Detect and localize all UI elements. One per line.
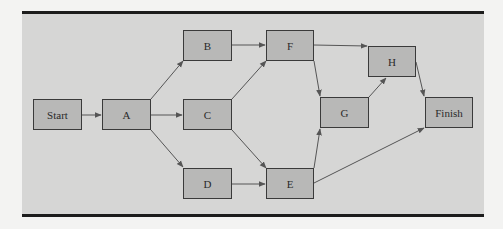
edge-a-d: [151, 130, 183, 167]
node-b-label: B: [204, 40, 211, 52]
node-b: B: [183, 30, 232, 61]
node-g-label: G: [341, 107, 349, 119]
node-a: A: [102, 99, 151, 130]
node-start-label: Start: [47, 109, 68, 121]
edge-g-h: [369, 78, 386, 97]
edge-f-g: [314, 61, 320, 96]
node-finish-label: Finish: [435, 107, 463, 119]
edge-e-finish: [314, 128, 424, 183]
node-finish: Finish: [425, 97, 473, 128]
node-f-label: F: [287, 40, 293, 52]
edge-f-h: [314, 45, 367, 46]
node-d-label: D: [204, 178, 212, 190]
node-f: F: [266, 30, 314, 61]
node-e: E: [266, 168, 314, 199]
node-e-label: E: [287, 178, 294, 190]
node-h-label: H: [388, 56, 396, 68]
node-c: C: [183, 99, 232, 130]
node-c-label: C: [204, 109, 211, 121]
node-a-label: A: [123, 109, 131, 121]
edge-e-g: [314, 129, 320, 168]
edge-h-finish: [416, 62, 424, 96]
diagram-stage: Start A B C D F E G H Finish: [0, 0, 503, 229]
node-g: G: [320, 97, 369, 128]
edge-a-b: [151, 61, 183, 99]
edge-c-e: [232, 130, 266, 168]
edge-c-f: [232, 61, 266, 99]
node-start: Start: [33, 99, 82, 130]
node-d: D: [183, 168, 232, 199]
node-h: H: [368, 46, 416, 77]
